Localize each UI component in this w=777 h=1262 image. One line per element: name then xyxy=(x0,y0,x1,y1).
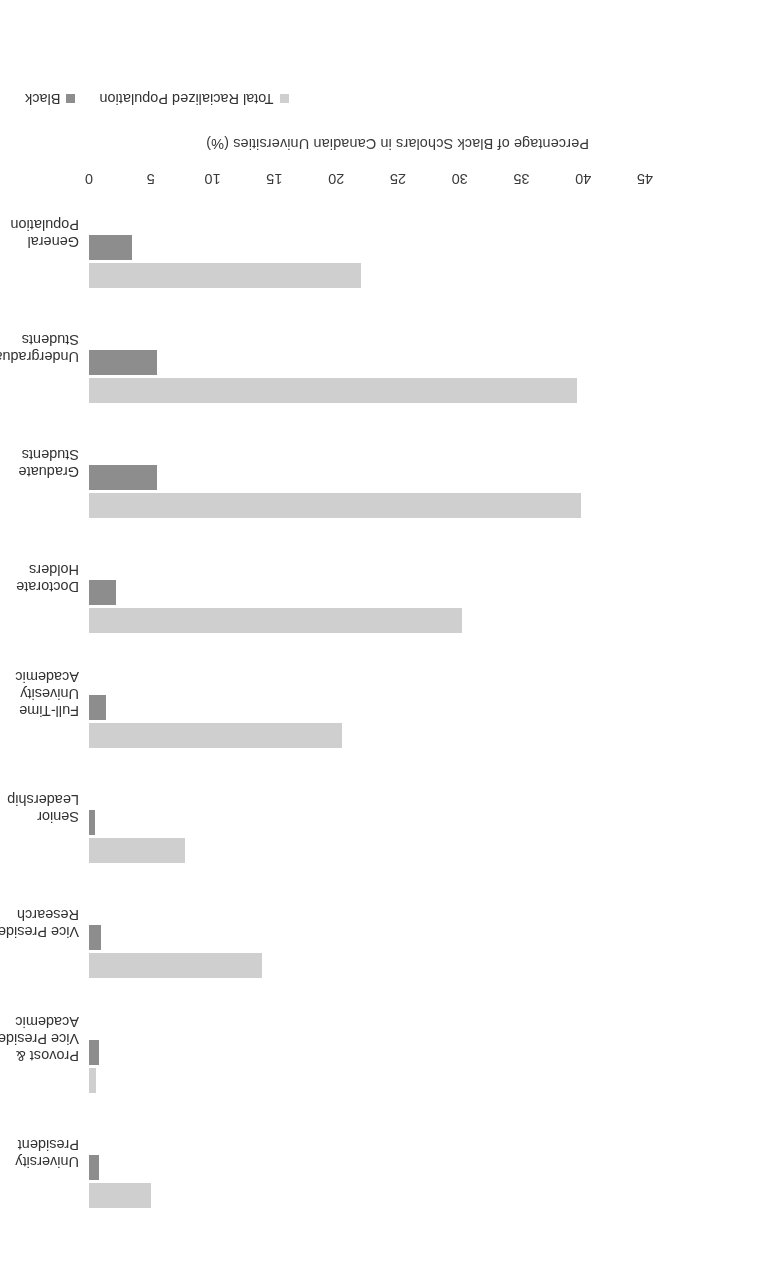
bar-track xyxy=(89,263,645,288)
bar-1[interactable] xyxy=(89,235,132,260)
bar-track xyxy=(89,378,645,403)
legend-swatch-black-icon xyxy=(66,95,75,104)
bar-track xyxy=(89,350,645,375)
axis-tick-10: 10 xyxy=(204,171,220,187)
bar-1[interactable] xyxy=(89,925,101,950)
bar-track xyxy=(89,235,645,260)
bar-track xyxy=(89,580,645,605)
axis-tick-45: 45 xyxy=(637,171,653,187)
bar-groups-container: University PresidentProvost & Vice Presi… xyxy=(89,190,645,1225)
bar-group: Doctorate Holders xyxy=(89,535,645,650)
axis-tick-25: 25 xyxy=(390,171,406,187)
bar-track xyxy=(89,465,645,490)
category-label: Graduate Students xyxy=(0,447,79,481)
axis-tick-20: 20 xyxy=(328,171,344,187)
bar-group: General Population xyxy=(89,190,645,305)
category-label: Full-Time Univesity Academic xyxy=(0,668,79,719)
bar-group: Undergraduate Students xyxy=(89,305,645,420)
bar-1[interactable] xyxy=(89,465,157,490)
bar-1[interactable] xyxy=(89,580,116,605)
legend-label: Black xyxy=(25,91,60,107)
bar-1[interactable] xyxy=(89,810,95,835)
bar-0[interactable] xyxy=(89,608,462,633)
chart-figure: 051015202530354045 Percentage of Black S… xyxy=(0,0,777,1262)
bar-0[interactable] xyxy=(89,378,577,403)
bar-track xyxy=(89,925,645,950)
bar-track xyxy=(89,493,645,518)
legend-label: Total Racialized Population xyxy=(99,91,273,107)
bar-0[interactable] xyxy=(89,838,185,863)
value-axis-title: Percentage of Black Scholars in Canadian… xyxy=(9,136,777,152)
bar-0[interactable] xyxy=(89,1183,151,1208)
axis-tick-5: 5 xyxy=(147,171,155,187)
axis-tick-0: 0 xyxy=(85,171,93,187)
bar-1[interactable] xyxy=(89,1040,99,1065)
bar-0[interactable] xyxy=(89,1068,96,1093)
bar-track xyxy=(89,1155,645,1180)
bar-track xyxy=(89,1040,645,1065)
bar-track xyxy=(89,838,645,863)
category-label: Undergraduate Students xyxy=(0,332,79,366)
legend-item[interactable]: Black xyxy=(25,91,75,107)
bar-track xyxy=(89,1068,645,1093)
category-label: General Population xyxy=(0,217,79,251)
category-label: Senior Leadership xyxy=(0,792,79,826)
bar-group: Senior Leadership xyxy=(89,765,645,880)
bar-track xyxy=(89,608,645,633)
category-label: University President xyxy=(0,1137,79,1171)
bar-track xyxy=(89,695,645,720)
bar-track xyxy=(89,810,645,835)
chart-legend: Total Racialized PopulationBlack xyxy=(17,91,777,107)
bar-track xyxy=(89,953,645,978)
bar-track xyxy=(89,1183,645,1208)
legend-swatch-total-racialized-icon xyxy=(280,95,289,104)
bar-track xyxy=(89,723,645,748)
bar-group: Vice President Research xyxy=(89,880,645,995)
category-label: Provost & Vice President Academic xyxy=(0,1013,79,1064)
axis-tick-40: 40 xyxy=(575,171,591,187)
category-label: Doctorate Holders xyxy=(0,562,79,596)
bar-1[interactable] xyxy=(89,1155,99,1180)
bar-0[interactable] xyxy=(89,953,262,978)
bar-0[interactable] xyxy=(89,493,581,518)
category-label: Vice President Research xyxy=(0,907,79,941)
legend-item[interactable]: Total Racialized Population xyxy=(99,91,288,107)
axis-tick-15: 15 xyxy=(266,171,282,187)
bar-group: Graduate Students xyxy=(89,420,645,535)
bar-1[interactable] xyxy=(89,350,157,375)
axis-tick-35: 35 xyxy=(513,171,529,187)
bar-group: University President xyxy=(89,1110,645,1225)
chart-plot-area: 051015202530354045 Percentage of Black S… xyxy=(0,0,777,1262)
bar-0[interactable] xyxy=(89,263,361,288)
bar-group: Full-Time Univesity Academic xyxy=(89,650,645,765)
bar-0[interactable] xyxy=(89,723,342,748)
value-axis-ticks: 051015202530354045 xyxy=(89,161,645,187)
axis-tick-30: 30 xyxy=(452,171,468,187)
bar-group: Provost & Vice President Academic xyxy=(89,995,645,1110)
bar-1[interactable] xyxy=(89,695,106,720)
